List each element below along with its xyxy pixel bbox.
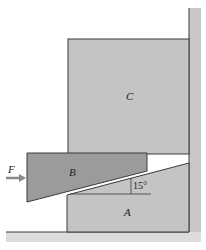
wall <box>189 8 201 236</box>
angle-label: 15° <box>133 180 147 191</box>
wedge-diagram: C A B 15° F <box>0 0 206 250</box>
block-c-label: C <box>126 90 134 102</box>
force-label: F <box>7 163 15 175</box>
wedge-b-label: B <box>69 166 76 178</box>
wedge-a-label: A <box>123 206 131 218</box>
force-arrow-icon <box>19 174 26 182</box>
floor-shadow <box>6 232 201 242</box>
